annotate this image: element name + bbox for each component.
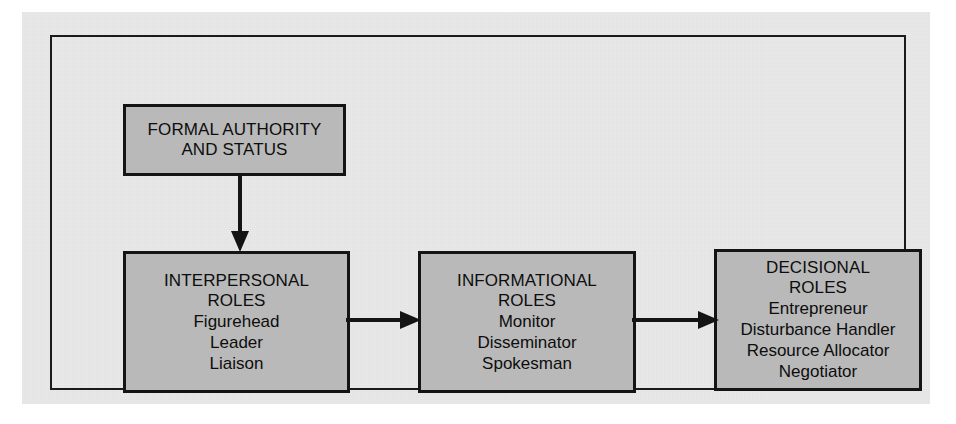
node-item-disturbance-handler: Disturbance Handler <box>741 319 896 340</box>
arrow-down-authority-to-interpersonal <box>226 173 254 253</box>
node-decisional-roles[interactable]: DECISIONAL ROLES Entrepreneur Disturbanc… <box>714 249 922 391</box>
arrow-right-informational-to-decisional <box>632 305 720 335</box>
node-item-liaison: Liaison <box>210 353 264 374</box>
node-title-formal-authority: FORMAL AUTHORITY AND STATUS <box>148 120 322 160</box>
diagram-outer-frame: FORMAL AUTHORITY AND STATUS INTERPERSONA… <box>50 35 906 390</box>
node-item-entrepreneur: Entrepreneur <box>768 298 867 319</box>
node-informational-roles[interactable]: INFORMATIONAL ROLES Monitor Disseminator… <box>418 251 636 393</box>
node-item-leader: Leader <box>210 332 263 353</box>
node-title-decisional-roles: DECISIONAL ROLES <box>766 258 870 298</box>
node-item-spokesman: Spokesman <box>482 353 572 374</box>
node-formal-authority-and-status[interactable]: FORMAL AUTHORITY AND STATUS <box>123 104 346 176</box>
node-item-resource-allocator: Resource Allocator <box>747 340 890 361</box>
node-item-figurehead: Figurehead <box>193 311 279 332</box>
node-item-negotiator: Negotiator <box>779 361 857 382</box>
node-title-informational-roles: INFORMATIONAL ROLES <box>457 271 597 311</box>
node-item-monitor: Monitor <box>499 311 556 332</box>
arrow-right-interpersonal-to-informational <box>346 305 422 335</box>
node-item-disseminator: Disseminator <box>477 332 576 353</box>
node-title-interpersonal-roles: INTERPERSONAL ROLES <box>164 271 309 311</box>
node-interpersonal-roles[interactable]: INTERPERSONAL ROLES Figurehead Leader Li… <box>123 251 350 393</box>
